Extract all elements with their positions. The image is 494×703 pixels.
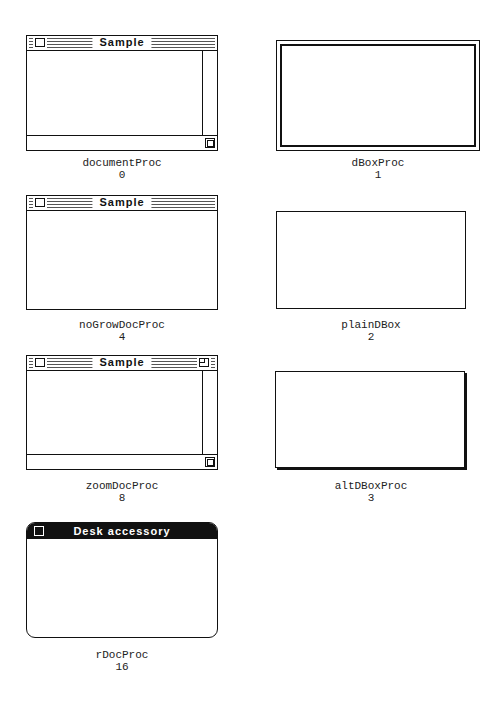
window-altdboxproc xyxy=(275,371,465,468)
horizontal-scrollbar[interactable] xyxy=(27,454,217,469)
zoom-box-icon[interactable] xyxy=(199,358,209,367)
proc-name: plainDBox xyxy=(276,319,466,331)
window-zoomdocproc: Sample xyxy=(26,355,218,470)
window-title: Sample xyxy=(92,356,151,369)
window-rdocproc: Desk accessory xyxy=(26,522,218,638)
proc-name: rDocProc xyxy=(26,649,218,661)
close-box-icon[interactable] xyxy=(35,198,45,207)
close-box-icon[interactable] xyxy=(35,38,45,47)
horizontal-scrollbar[interactable] xyxy=(27,135,217,150)
caption-nogrowdocproc: noGrowDocProc 4 xyxy=(26,319,218,343)
proc-name: altDBoxProc xyxy=(275,480,467,492)
window-documentproc: Sample xyxy=(26,35,218,151)
proc-id: 8 xyxy=(26,492,218,504)
caption-documentproc: documentProc 0 xyxy=(26,157,218,181)
caption-dboxproc: dBoxProc 1 xyxy=(276,157,480,181)
close-box-icon[interactable] xyxy=(35,358,45,367)
vertical-scrollbar[interactable] xyxy=(202,50,217,136)
proc-id: 4 xyxy=(26,331,218,343)
vertical-scrollbar[interactable] xyxy=(202,370,217,455)
window-title: Sample xyxy=(92,36,151,49)
window-dboxproc xyxy=(276,40,480,151)
proc-id: 0 xyxy=(26,169,218,181)
proc-name: documentProc xyxy=(26,157,218,169)
window-title: Sample xyxy=(92,196,151,209)
proc-name: noGrowDocProc xyxy=(26,319,218,331)
caption-plaindbox: plainDBox 2 xyxy=(276,319,466,343)
proc-id: 16 xyxy=(26,661,218,673)
caption-zoomdocproc: zoomDocProc 8 xyxy=(26,480,218,504)
grow-box-icon[interactable] xyxy=(205,457,215,467)
window-plaindbox xyxy=(276,211,466,309)
proc-name: dBoxProc xyxy=(276,157,480,169)
grow-box-icon[interactable] xyxy=(205,138,215,148)
proc-id: 2 xyxy=(276,331,466,343)
window-nogrowdocproc: Sample xyxy=(26,195,218,310)
caption-altdboxproc: altDBoxProc 3 xyxy=(275,480,467,504)
proc-name: zoomDocProc xyxy=(26,480,218,492)
window-title: Desk accessory xyxy=(27,524,217,538)
proc-id: 3 xyxy=(275,492,467,504)
proc-id: 1 xyxy=(276,169,480,181)
inner-border xyxy=(280,44,476,147)
caption-rdocproc: rDocProc 16 xyxy=(26,649,218,673)
